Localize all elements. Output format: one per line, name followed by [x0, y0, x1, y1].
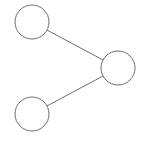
edge-node-top-left-to-node-right [47, 30, 103, 60]
node-top-left [15, 5, 49, 39]
diagram-canvas [0, 0, 143, 143]
node-bottom-left [15, 97, 49, 131]
edges [47, 30, 103, 106]
edge-node-bottom-left-to-node-right [47, 76, 103, 106]
node-right [101, 51, 135, 85]
nodes [15, 5, 135, 131]
